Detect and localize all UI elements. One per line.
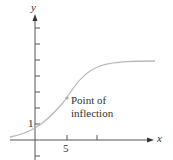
x-axis-label: x [157,133,162,144]
x-ticks [67,135,97,140]
x-tick-label-5: 5 [63,143,69,154]
y-tick-label-1: 1 [28,118,34,129]
inflection-point-marker [65,96,68,99]
y-axis-arrow-icon [33,14,38,21]
x-axis-arrow-icon [147,138,154,143]
chart-canvas [0,0,173,160]
y-ticks [35,28,40,156]
y-axis-label: y [31,2,36,13]
annotation-line-1: Point of [71,95,106,106]
annotation-line-2: inflection [71,108,113,119]
